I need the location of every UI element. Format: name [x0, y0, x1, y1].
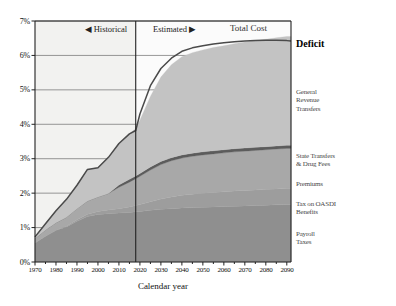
legend-line-1: Tax on OASDI [296, 200, 394, 208]
total-cost-label: Total Cost [230, 23, 267, 33]
legend-label-premiums: Premiums [296, 180, 394, 188]
legend-label-state-transfers-drug-fees: State Transfers & Drug Fees [296, 152, 394, 169]
chart-root: 7% 6% 5% 4% 3% 2% 1% 0% 1970 1980 1990 2… [0, 0, 396, 306]
legend-label-deficit: Deficit [296, 40, 394, 48]
legend-label-tax-on-oasdi-benefits: Tax on OASDI Benefits [296, 200, 394, 217]
y-tick-3: 3% [4, 154, 30, 163]
x-axis-title: Calendar year [93, 281, 233, 291]
y-tick-1: 1% [4, 223, 30, 232]
era-estimated-label: Estimated ▶ [153, 24, 196, 34]
legend-line-2: Benefits [296, 208, 394, 216]
y-tick-7: 7% [4, 17, 30, 26]
legend-line-3: Transfers [296, 105, 394, 113]
legend-line-1: State Transfers [296, 152, 394, 160]
legend-line-1: Payroll [296, 230, 394, 238]
legend-line-1: General [296, 88, 394, 96]
era-historical-label: ◀ Historical [85, 24, 127, 34]
x-tick-2090: 2090 [272, 266, 302, 274]
legend-line-2: Taxes [296, 238, 394, 246]
legend-label-general-revenue-transfers: General Revenue Transfers [296, 88, 394, 113]
y-tick-4: 4% [4, 120, 30, 129]
legend-label-payroll-taxes: Payroll Taxes [296, 230, 394, 247]
y-tick-2: 2% [4, 189, 30, 198]
y-tick-6: 6% [4, 51, 30, 60]
legend-line-1: Premiums [296, 180, 394, 188]
y-tick-5: 5% [4, 85, 30, 94]
legend-line-2: & Drug Fees [296, 160, 394, 168]
legend-line-2: Revenue [296, 96, 394, 104]
